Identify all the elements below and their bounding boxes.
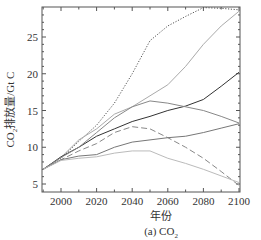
series-line-dashed — [43, 127, 239, 186]
series-line-dotted-high — [43, 8, 239, 170]
y-tick-label: 25 — [27, 31, 39, 43]
y-axis-title: CO2排放量/Gt C — [3, 72, 19, 148]
x-tick-label: 2100 — [228, 195, 251, 207]
plot-frame — [42, 7, 240, 192]
x-tick-label: 2080 — [192, 195, 215, 207]
x-tick-label: 2060 — [157, 195, 180, 207]
y-tick-label: 5 — [33, 178, 39, 190]
x-axis-title: 年份 — [150, 209, 172, 222]
series-line-light-low — [43, 151, 239, 183]
x-tick-label: 2020 — [86, 195, 109, 207]
co2-emissions-chart: 200020202040206020802100510152025年份(a) C… — [0, 0, 261, 240]
y-tick-label: 20 — [27, 68, 39, 80]
y-tick-label: 15 — [27, 105, 39, 117]
x-tick-label: 2040 — [121, 195, 144, 207]
x-tick-label: 2000 — [50, 195, 73, 207]
series-line-dark-solid — [43, 72, 239, 169]
y-tick-label: 10 — [27, 141, 39, 153]
series-line-light-solid-high — [43, 11, 239, 169]
chart-caption: (a) CO2 — [144, 225, 178, 240]
